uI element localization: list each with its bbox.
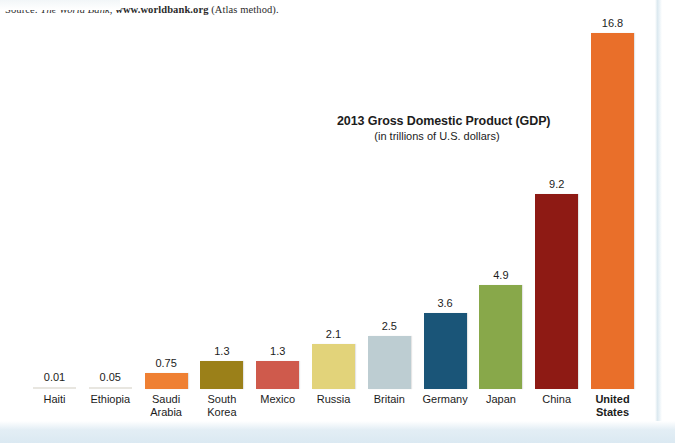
bar-column[interactable]: 1.3 (194, 0, 249, 389)
category-label: Germany (415, 393, 475, 406)
bar-column[interactable]: 0.05 (83, 0, 138, 389)
category-label-line: South (192, 393, 252, 406)
category-label: SaudiArabia (136, 393, 196, 419)
bar-column[interactable]: 3.6 (418, 0, 473, 389)
bar-column[interactable]: 2.5 (362, 0, 417, 389)
category-label-line: Japan (471, 393, 531, 406)
category-label-line: Russia (304, 393, 364, 406)
category-label: Russia (304, 393, 364, 406)
bar-value-label: 4.9 (473, 269, 528, 281)
chart-title: 2013 Gross Domestic Product (GDP) (337, 114, 537, 128)
category-label: SouthKorea (192, 393, 252, 419)
bar-value-label: 2.1 (306, 328, 361, 340)
bar[interactable] (591, 33, 634, 389)
bar-column[interactable]: 4.9 (473, 0, 528, 389)
category-label-line: Korea (192, 406, 252, 419)
bar[interactable] (368, 336, 411, 389)
category-label: Haiti (25, 393, 85, 406)
page-corner-artifact (0, 0, 120, 10)
bar[interactable] (256, 361, 299, 389)
bar-value-label: 1.3 (194, 345, 249, 357)
bar-value-label: 0.75 (139, 357, 194, 369)
bar-value-label: 16.8 (585, 17, 640, 29)
bar-column[interactable]: 9.2 (529, 0, 584, 389)
category-label-line: Mexico (248, 393, 308, 406)
bar[interactable] (200, 361, 243, 389)
bar[interactable] (479, 285, 522, 389)
category-label: UnitedStates (583, 393, 643, 419)
category-label-line: Britain (359, 393, 419, 406)
bar[interactable] (535, 194, 578, 389)
category-label-line: United (583, 393, 643, 406)
category-axis: HaitiEthiopiaSaudiArabiaSouthKoreaMexico… (0, 393, 675, 423)
bar[interactable] (33, 387, 76, 389)
category-label-line: China (527, 393, 587, 406)
bar-value-label: 0.01 (27, 371, 82, 383)
category-label: Ethiopia (80, 393, 140, 406)
page-edge-bottom (0, 421, 675, 443)
bar-value-label: 1.3 (250, 345, 305, 357)
bar-value-label: 9.2 (529, 178, 584, 190)
bar-chart-plot-area: 0.010.050.751.31.32.12.53.64.99.216.8 (0, 0, 675, 389)
page-edge-right (655, 0, 662, 421)
bar[interactable] (89, 387, 132, 389)
bar-value-label: 3.6 (418, 297, 473, 309)
category-label: Britain (359, 393, 419, 406)
category-label-line: Ethiopia (80, 393, 140, 406)
category-label: Mexico (248, 393, 308, 406)
bar[interactable] (312, 344, 355, 389)
bar-column[interactable]: 2.1 (306, 0, 361, 389)
bar-column[interactable]: 1.3 (250, 0, 305, 389)
category-label-line: Germany (415, 393, 475, 406)
bar-column[interactable]: 0.75 (139, 0, 194, 389)
bar[interactable] (424, 313, 467, 389)
category-label: China (527, 393, 587, 406)
bar-column[interactable]: 0.01 (27, 0, 82, 389)
category-label: Japan (471, 393, 531, 406)
category-label-line: States (583, 406, 643, 419)
bar[interactable] (145, 373, 188, 389)
chart-title-block: 2013 Gross Domestic Product (GDP) (in tr… (337, 114, 537, 142)
category-label-line: Saudi (136, 393, 196, 406)
category-label-line: Arabia (136, 406, 196, 419)
bar-value-label: 2.5 (362, 320, 417, 332)
chart-subtitle: (in trillions of U.S. dollars) (337, 130, 537, 142)
category-label-line: Haiti (25, 393, 85, 406)
bar-value-label: 0.05 (83, 371, 138, 383)
bar-column[interactable]: 16.8 (585, 0, 640, 389)
